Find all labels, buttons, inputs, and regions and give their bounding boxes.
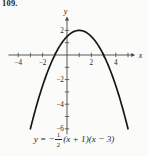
x-tick-label: −2 <box>39 59 47 67</box>
fraction-denominator: 2 <box>57 140 60 148</box>
x-axis-label: x <box>138 51 143 60</box>
y-tick-label: 2 <box>60 27 64 35</box>
y-tick-label: −4 <box>56 101 64 109</box>
equation-prefix: y = − <box>34 135 55 144</box>
x-axis-arrow-icon <box>131 53 135 57</box>
y-axis-label: y <box>63 7 68 16</box>
y-axis-arrow-icon <box>65 16 69 20</box>
fraction-numerator: 1 <box>55 131 61 140</box>
equation-factors: (x + 1)(x − 3) <box>63 135 114 144</box>
y-tick-label: −2 <box>56 76 64 84</box>
equation-fraction: 1 2 <box>55 131 61 149</box>
equation: y = − 1 2 (x + 1)(x − 3) <box>0 131 148 149</box>
textbook-figure: 109. xy−4−2242−2−4−6 y = − 1 2 (x + 1)(x… <box>0 0 148 156</box>
parabola-curve <box>30 30 128 128</box>
x-tick-label: 2 <box>90 59 94 67</box>
x-tick-label: −4 <box>14 59 22 67</box>
x-tick-label: 4 <box>114 59 118 67</box>
